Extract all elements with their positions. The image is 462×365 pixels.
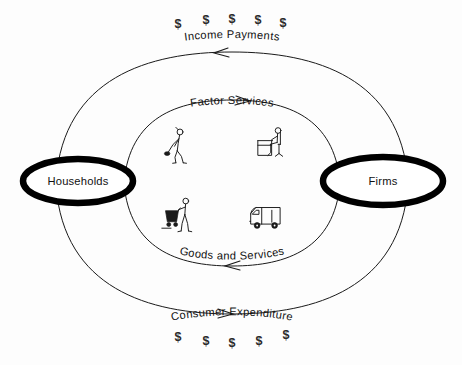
dollar-sign-icon: $ xyxy=(203,334,210,348)
office-worker-at-desk-icon xyxy=(258,128,283,157)
dollar-sign-icon: $ xyxy=(203,13,210,27)
households-label: Households xyxy=(47,175,108,187)
inner-ring-arcs xyxy=(124,100,340,266)
flow-label-factor-services: Factor Services xyxy=(189,94,275,109)
money-symbols-bottom: $ $ $ $ $ xyxy=(175,328,290,350)
flow-label-goods-and-services: Goods and Services xyxy=(179,245,286,262)
dollar-sign-icon: $ xyxy=(283,328,290,342)
flow-label-consumer-expenditure: Consumer Expenditure xyxy=(170,305,294,323)
dollar-sign-icon: $ xyxy=(175,17,182,31)
node-firms[interactable]: Firms xyxy=(323,157,443,205)
flow-diagram-canvas: Income Payments Factor Services Goods an… xyxy=(0,0,462,365)
laborer-with-tool-icon xyxy=(164,127,186,163)
dollar-sign-icon: $ xyxy=(229,336,236,350)
dollar-sign-icon: $ xyxy=(175,330,182,344)
shopper-with-cart-icon xyxy=(162,198,192,231)
circular-flow-diagram: Income Payments Factor Services Goods an… xyxy=(0,0,462,365)
flow-label-income-payments: Income Payments xyxy=(183,28,280,43)
delivery-truck-icon xyxy=(250,208,280,229)
factor-services-arc xyxy=(124,100,340,182)
dollar-sign-icon: $ xyxy=(280,16,287,30)
firms-label: Firms xyxy=(369,175,398,187)
dollar-sign-icon: $ xyxy=(255,13,262,27)
node-households[interactable]: Households xyxy=(23,159,133,203)
dollar-sign-icon: $ xyxy=(229,12,236,26)
dollar-sign-icon: $ xyxy=(256,334,263,348)
